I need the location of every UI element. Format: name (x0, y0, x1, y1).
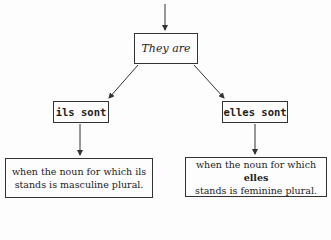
fem-line2: stands is feminine plural. (186, 184, 326, 197)
ils-sont-node: ils sont (53, 101, 109, 123)
root-label: They are (142, 42, 191, 55)
keyword-elles: elles (244, 172, 269, 183)
fem-line1: when the noun for which elles (186, 158, 326, 184)
masculine-explanation-box: when the noun for which ils stands is ma… (5, 158, 153, 198)
ils-sont-label: ils sont (56, 106, 107, 118)
feminine-explanation-box: when the noun for which elles stands is … (185, 157, 327, 197)
elles-sont-node: elles sont (222, 101, 288, 123)
root-node: They are (134, 33, 198, 64)
elles-sont-label: elles sont (223, 106, 286, 118)
keyword-ils: ils (135, 166, 146, 177)
masc-line1: when the noun for which ils (12, 165, 146, 178)
masc-line2: stands is masculine plural. (12, 178, 146, 191)
